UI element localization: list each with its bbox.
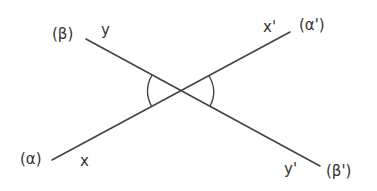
label-y-prime: y' [284,162,297,177]
line-beta [86,39,320,166]
label-x: x [80,154,89,169]
label-x-prime: x' [263,20,276,35]
label-y: y [101,23,110,38]
label-beta-prime: (β') [326,164,351,179]
left-angle-arc [148,75,153,107]
right-angle-arc [209,76,214,106]
intersecting-lines-diagram: (β) y x' (α') (α) x y' (β') [0,0,377,191]
label-alpha-prime: (α') [299,18,325,33]
line-alpha [52,32,290,160]
label-beta: (β) [52,27,73,42]
label-alpha: (α) [20,152,42,167]
